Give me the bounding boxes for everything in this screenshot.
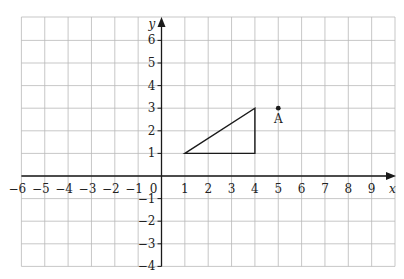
y-axis-label: y [148,17,156,31]
point-a-marker [276,106,281,111]
x-tick-label: 8 [344,182,352,196]
y-tick-label: 3 [148,101,156,115]
x-tick-label: 3 [228,182,236,196]
y-tick-label: 2 [148,124,156,138]
x-tick-label: 9 [368,182,376,196]
coordinate-grid: xy−6−5−4−3−2−11234567890654321−1−2−3−4 A [0,0,404,279]
shapes: A [185,106,283,154]
x-tick-label: −3 [79,182,97,196]
y-axis-arrow-icon [158,17,166,27]
tick-labels: xy−6−5−4−3−2−11234567890654321−1−2−3−4 [9,17,396,273]
y-tick-label: −2 [138,214,156,228]
x-tick-label: 7 [321,182,329,196]
x-tick-label: 2 [204,182,212,196]
x-tick-label: 1 [181,182,189,196]
x-tick-label: −4 [55,182,73,196]
x-tick-label: 5 [274,182,282,196]
point-a-label: A [273,112,283,126]
y-tick-label: 1 [148,146,156,160]
grid-lines [21,17,395,266]
x-tick-label: −2 [102,182,120,196]
y-tick-label: −1 [138,192,156,206]
x-axis-arrow-icon [386,172,396,180]
x-axis-label: x [389,182,396,196]
y-tick-label: 5 [148,56,156,70]
x-tick-label: −6 [9,182,27,196]
x-tick-label: 4 [251,182,259,196]
y-tick-label: 4 [148,79,156,93]
y-tick-label: −4 [138,259,156,273]
x-tick-label: 6 [298,182,306,196]
x-tick-label: −5 [32,182,50,196]
y-tick-label: −3 [138,237,156,251]
axes [21,17,396,266]
y-tick-label: 6 [148,33,156,47]
